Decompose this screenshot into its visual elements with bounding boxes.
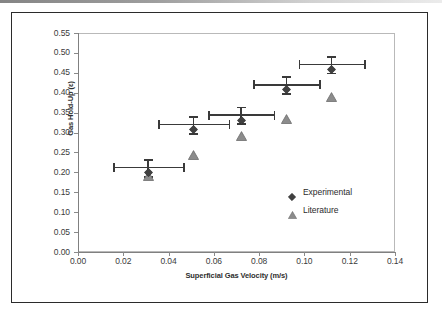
error-bar-cap-left xyxy=(158,120,160,129)
error-bar-cap-right xyxy=(183,163,185,172)
y-tick-label: 0.10 xyxy=(40,207,70,217)
y-tick-label: 0.20 xyxy=(40,167,70,177)
y-tick-label: 0.00 xyxy=(40,247,70,257)
data-point-literature xyxy=(236,127,247,137)
data-point-experimental xyxy=(144,163,153,172)
error-bar-cap-left xyxy=(299,60,301,69)
error-bar-cap-left xyxy=(113,163,115,172)
y-tick-mark xyxy=(74,133,78,134)
data-point-experimental xyxy=(237,111,246,120)
y-tick-label: 0.05 xyxy=(40,227,70,237)
x-tick-label: 0.14 xyxy=(378,256,412,266)
y-tick-mark xyxy=(74,53,78,54)
error-bar-cap-top xyxy=(237,107,246,109)
y-tick-mark xyxy=(74,192,78,193)
x-tick-label: 0.08 xyxy=(242,256,276,266)
y-axis-title: Gas Hold-Up (ε) xyxy=(66,61,75,157)
error-bar-cap-top xyxy=(327,56,336,58)
error-bar-cap-left xyxy=(253,80,255,89)
error-bar-cap-right xyxy=(364,60,366,69)
data-point-experimental xyxy=(282,80,291,89)
error-bar-cap-top xyxy=(144,159,153,161)
y-tick-mark xyxy=(74,93,78,94)
x-tick-label: 0.02 xyxy=(106,256,140,266)
legend-triangle-icon xyxy=(288,205,299,216)
y-tick-label: 0.55 xyxy=(40,28,70,38)
legend-diamond-icon xyxy=(288,187,299,198)
chart-canvas: 0.000.050.100.150.200.250.300.350.400.45… xyxy=(0,0,442,322)
data-point-experimental xyxy=(327,60,336,69)
data-point-literature xyxy=(281,110,292,120)
x-tick-label: 0.00 xyxy=(61,256,95,266)
y-tick-mark xyxy=(74,73,78,74)
x-tick-label: 0.12 xyxy=(333,256,367,266)
chart-legend: ExperimentalLiterature xyxy=(288,183,392,219)
legend-item-label: Experimental xyxy=(303,183,352,201)
error-bar-cap-left xyxy=(208,111,210,120)
x-axis-line xyxy=(78,252,396,253)
error-bar-cap-right xyxy=(274,111,276,120)
data-point-literature xyxy=(326,88,337,98)
plot-area xyxy=(78,33,395,252)
error-bar-cap-top xyxy=(282,76,291,78)
y-tick-mark xyxy=(74,172,78,173)
legend-item: Literature xyxy=(288,201,392,219)
x-axis-title: Superficial Gas Velocity (m/s) xyxy=(78,271,395,280)
error-bar-cap-right xyxy=(319,80,321,89)
y-tick-label: 0.50 xyxy=(40,47,70,57)
x-tick-label: 0.10 xyxy=(287,256,321,266)
y-tick-label: 0.15 xyxy=(40,187,70,197)
error-bar-cap-top xyxy=(189,116,198,118)
y-tick-mark xyxy=(74,33,78,34)
y-tick-mark xyxy=(74,212,78,213)
x-tick-label: 0.04 xyxy=(152,256,186,266)
y-tick-mark xyxy=(74,232,78,233)
data-point-experimental xyxy=(189,120,198,129)
error-bar-cap-right xyxy=(229,120,231,129)
y-tick-mark xyxy=(74,152,78,153)
legend-item-label: Literature xyxy=(303,201,338,219)
legend-item: Experimental xyxy=(288,183,392,201)
y-axis-line xyxy=(78,33,79,253)
data-point-literature xyxy=(188,146,199,156)
y-tick-mark xyxy=(74,113,78,114)
x-tick-label: 0.06 xyxy=(197,256,231,266)
